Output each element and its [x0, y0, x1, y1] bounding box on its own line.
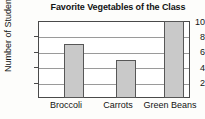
bars-layer [38, 21, 190, 98]
bar-broccoli [64, 44, 84, 98]
bar-chart: Favorite Vegetables of the Class Number … [0, 0, 205, 119]
y-axis-title: Number of Students [3, 0, 13, 72]
bar-carrots [116, 60, 136, 99]
bar-green-beans [164, 21, 184, 98]
x-axis-label-green-beans: Green Beans [137, 100, 203, 110]
chart-title: Favorite Vegetables of the Class [34, 2, 202, 12]
x-axis-label-broccoli: Broccoli [38, 100, 94, 110]
